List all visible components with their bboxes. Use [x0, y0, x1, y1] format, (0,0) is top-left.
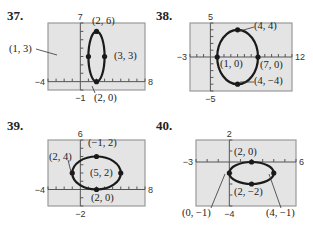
- tick-label: −1: [75, 93, 85, 103]
- point-label: (2, 0): [91, 192, 114, 204]
- graph-39: −486−2(2, 4)(−1, 2)(5, 2)(2, 0): [0, 112, 156, 225]
- data-point: [249, 159, 254, 164]
- data-point: [70, 170, 75, 175]
- data-point: [86, 54, 91, 59]
- point-label: (4, 4): [254, 20, 277, 32]
- graph-40: −362−4(2, 0)(0, −1)(4, −1)(2, −2): [156, 112, 313, 225]
- point-label: (4, −4): [254, 75, 283, 87]
- tick-label: 5: [208, 12, 213, 22]
- data-point: [94, 154, 99, 159]
- tick-label: 7: [78, 12, 83, 22]
- point-label: (2, 4): [49, 151, 72, 163]
- data-point: [235, 82, 240, 87]
- problem-37: 37. −487−1(2, 6)(1, 3)(3, 3)(2, 0): [0, 0, 156, 112]
- data-point: [271, 170, 276, 175]
- point-label: (2, −2): [234, 186, 263, 198]
- tick-label: 8: [148, 185, 153, 195]
- point-label: (1, 0): [220, 58, 243, 70]
- point-label: (2, 0): [234, 146, 257, 158]
- data-point: [102, 54, 107, 59]
- tick-label: 12: [295, 52, 305, 62]
- point-label: (1, 3): [9, 43, 32, 55]
- graph-37: −487−1(2, 6)(1, 3)(3, 3)(2, 0): [0, 0, 156, 112]
- tick-label: −3: [183, 157, 193, 167]
- graph-38: −3125−5(4, 4)(1, 0)(7, 0)(4, −4): [156, 0, 313, 112]
- tick-label: 2: [227, 129, 232, 139]
- tick-label: 8: [148, 77, 153, 87]
- problem-39: 39. −486−2(2, 4)(−1, 2)(5, 2)(2, 0): [0, 112, 156, 225]
- problem-40: 40. −362−4(2, 0)(0, −1)(4, −1)(2, −2): [156, 112, 313, 225]
- point-label: (2, 6): [92, 15, 115, 27]
- point-label: (2, 0): [94, 92, 117, 104]
- tick-label: −4: [224, 209, 234, 219]
- tick-label: −4: [35, 185, 45, 195]
- data-point: [94, 29, 99, 34]
- data-point: [118, 170, 123, 175]
- point-label: (4, −1): [266, 207, 295, 219]
- point-label: (−1, 2): [88, 137, 117, 149]
- point-label: (7, 0): [260, 59, 283, 71]
- tick-label: −3: [177, 52, 187, 62]
- point-label: (5, 2): [90, 167, 113, 179]
- point-label: (3, 3): [114, 50, 137, 62]
- tick-label: 6: [78, 129, 83, 139]
- tick-label: −4: [35, 77, 45, 87]
- data-point: [227, 170, 232, 175]
- tick-label: 6: [299, 157, 304, 167]
- problem-38: 38. −3125−5(4, 4)(1, 0)(7, 0)(4, −4): [156, 0, 313, 112]
- tick-label: −2: [75, 209, 85, 219]
- data-point: [94, 79, 99, 84]
- data-point: [235, 27, 240, 32]
- tick-label: −5: [205, 94, 215, 104]
- point-label: (0, −1): [182, 207, 211, 219]
